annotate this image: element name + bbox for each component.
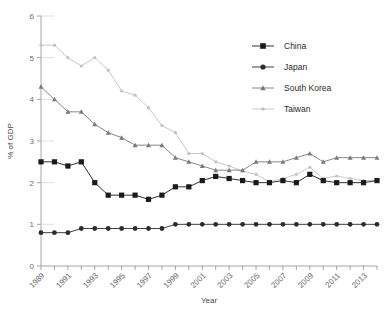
x-tick-label: 1993: [81, 271, 100, 290]
data-point: [119, 226, 124, 231]
data-point: [38, 159, 43, 164]
data-point: [214, 160, 217, 163]
series-south-korea: [39, 84, 380, 172]
data-point: [227, 176, 232, 181]
data-point: [79, 159, 84, 164]
x-tick-label: 2001: [189, 271, 208, 290]
data-point: [213, 222, 218, 227]
data-point: [146, 226, 151, 231]
series-line: [41, 162, 377, 200]
legend-marker: [261, 107, 264, 110]
data-point: [79, 226, 84, 231]
data-point: [228, 164, 231, 167]
data-point: [186, 222, 191, 227]
data-point: [254, 222, 259, 227]
data-point: [200, 222, 205, 227]
data-point: [334, 222, 339, 227]
data-point: [92, 180, 97, 185]
legend-item-japan[interactable]: Japan: [252, 62, 307, 72]
x-tick-label: 2003: [216, 271, 235, 290]
x-tick-label: 2011: [324, 271, 343, 290]
data-point: [294, 222, 299, 227]
x-tick-label: 2005: [243, 271, 262, 290]
x-tick-label: 1991: [54, 271, 73, 290]
data-point: [39, 84, 44, 89]
legend-marker: [260, 43, 266, 49]
data-point: [280, 178, 285, 183]
y-tick-label: 6: [30, 12, 35, 21]
data-point: [107, 69, 110, 72]
data-point: [66, 56, 69, 59]
data-point: [173, 184, 178, 189]
x-tick-label: 1997: [135, 271, 154, 290]
series-japan: [39, 222, 380, 235]
line-chart: 0123456198919911993199519971999200120032…: [0, 0, 390, 311]
data-point: [146, 197, 151, 202]
legend-item-label: South Korea: [284, 83, 332, 93]
legend-item-label: Japan: [284, 62, 307, 72]
data-point: [120, 89, 123, 92]
data-point: [160, 226, 165, 231]
data-point: [308, 166, 311, 169]
x-tick-label: 2009: [296, 271, 315, 290]
series-line: [41, 45, 377, 182]
data-point: [253, 180, 258, 185]
data-point: [187, 152, 190, 155]
data-point: [39, 230, 44, 235]
x-tick-label: 1989: [27, 271, 46, 290]
data-point: [334, 180, 339, 185]
data-point: [132, 193, 137, 198]
data-point: [281, 222, 286, 227]
legend-item-china[interactable]: China: [252, 41, 306, 51]
data-point: [65, 230, 70, 235]
y-tick-label: 2: [30, 179, 35, 188]
data-point: [240, 222, 245, 227]
data-point: [361, 180, 366, 185]
data-point: [119, 193, 124, 198]
y-tick-label: 1: [30, 220, 35, 229]
data-point: [52, 230, 57, 235]
data-point: [348, 180, 353, 185]
data-point: [52, 159, 57, 164]
data-point: [349, 177, 352, 180]
data-point: [374, 178, 379, 183]
data-point: [294, 180, 299, 185]
legend-item-label: China: [284, 41, 306, 51]
x-tick-label: 1995: [108, 271, 127, 290]
data-point: [173, 222, 178, 227]
data-point: [80, 64, 83, 67]
data-point: [133, 226, 138, 231]
legend-marker: [260, 64, 265, 69]
data-point: [295, 173, 298, 176]
y-tick-label: 4: [30, 95, 35, 104]
data-point: [254, 173, 257, 176]
data-point: [307, 222, 312, 227]
legend-item-south-korea[interactable]: South Korea: [252, 83, 332, 93]
data-point: [375, 222, 380, 227]
data-point: [147, 106, 150, 109]
data-point: [348, 222, 353, 227]
x-axis-title: Year: [201, 296, 218, 305]
data-point: [335, 174, 338, 177]
y-tick-label: 3: [30, 137, 35, 146]
data-point: [186, 184, 191, 189]
series-line: [41, 224, 377, 232]
data-point: [39, 44, 42, 47]
y-axis-title: % of GDP: [6, 123, 15, 159]
x-tick-label: 2013: [350, 271, 369, 290]
data-point: [307, 172, 312, 177]
data-point: [106, 193, 111, 198]
data-point: [321, 178, 326, 183]
series-china: [38, 159, 379, 202]
data-point: [240, 178, 245, 183]
data-point: [321, 222, 326, 227]
data-point: [227, 222, 232, 227]
legend-item-taiwan[interactable]: Taiwan: [252, 104, 311, 114]
y-tick-label: 0: [30, 262, 35, 271]
data-point: [159, 193, 164, 198]
data-point: [307, 151, 312, 156]
data-point: [174, 131, 177, 134]
x-tick-label: 1999: [162, 271, 181, 290]
chart-legend: ChinaJapanSouth KoreaTaiwan: [252, 41, 332, 114]
data-point: [106, 226, 111, 231]
